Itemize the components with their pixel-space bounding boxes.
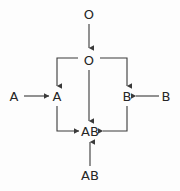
node-a: A <box>52 90 61 103</box>
node-b-right: B <box>161 90 170 103</box>
node-b: B <box>122 90 131 103</box>
edge-o-to-a <box>57 58 78 86</box>
node-o-top: O <box>84 8 94 21</box>
node-a-left: A <box>9 90 18 103</box>
edge-a-to-ab <box>57 106 79 131</box>
diagram-edges <box>0 0 180 191</box>
diagram-canvas: O O A A B B AB AB <box>0 0 180 191</box>
node-o-center: O <box>84 54 94 67</box>
node-ab: AB <box>81 125 99 138</box>
node-ab-bottom: AB <box>81 169 99 182</box>
edge-o-to-b <box>100 58 127 86</box>
edge-b-to-ab <box>103 106 127 131</box>
